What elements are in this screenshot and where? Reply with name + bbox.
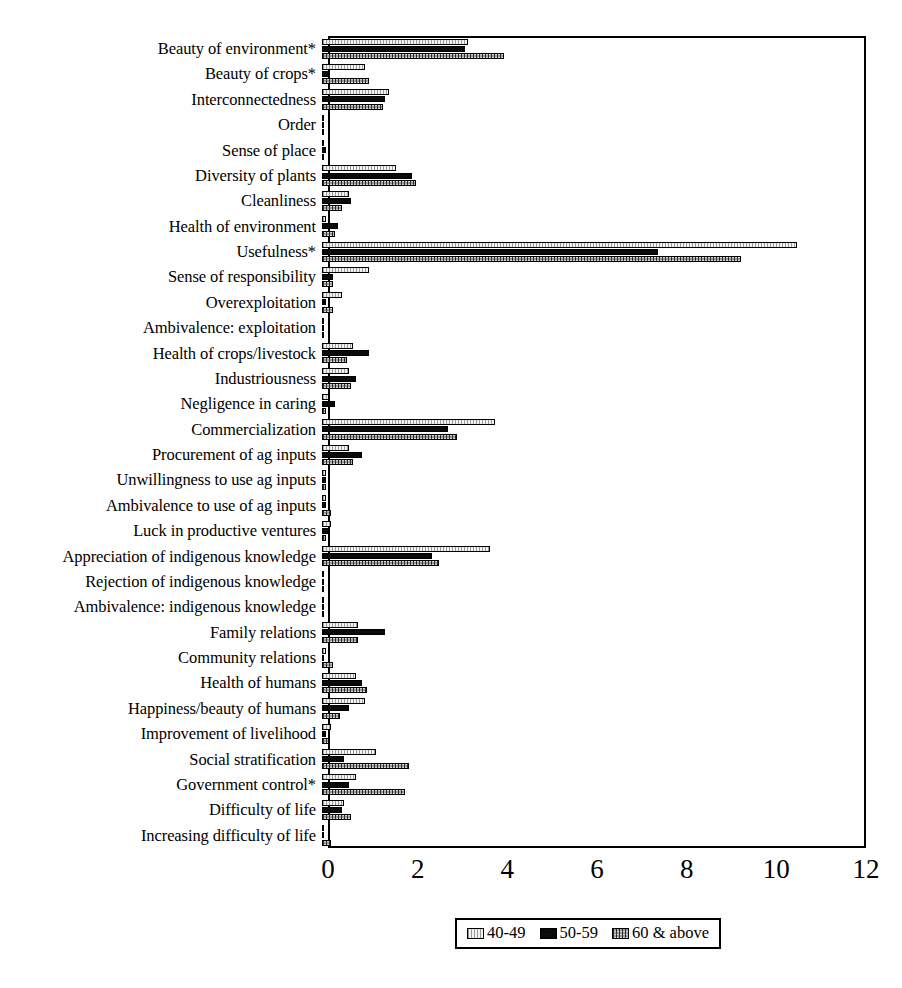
bar-50-59 [322, 731, 326, 737]
bar-50-59 [322, 832, 324, 838]
legend-item-60-above: 60 & above [612, 923, 709, 943]
bar-50-59 [322, 553, 432, 559]
bar-60-above [322, 814, 351, 820]
bar-group [322, 61, 862, 86]
bar-group [322, 518, 862, 543]
legend-swatch-icon-50-59 [540, 928, 557, 939]
legend-swatch-icon-40-49 [467, 928, 484, 939]
bar-50-59 [322, 502, 326, 508]
category-label: Luck in productive ventures [0, 522, 322, 539]
category-label: Rejection of indigenous knowledge [0, 573, 322, 590]
category-label: Community relations [0, 649, 322, 666]
bar-50-59 [322, 46, 465, 52]
bar-50-59 [322, 579, 324, 585]
bar-40-49 [322, 191, 349, 197]
bar-40-49 [322, 571, 324, 577]
bar-60-above [322, 408, 326, 414]
bar-40-49 [322, 64, 365, 70]
bar-group [322, 569, 862, 594]
category-row: Negligence in caring [0, 391, 866, 416]
category-label: Ambivalence to use of ag inputs [0, 497, 322, 514]
bar-60-above [322, 307, 333, 313]
category-row: Interconnectedness [0, 87, 866, 112]
category-row: Industriousness [0, 366, 866, 391]
bar-60-above [322, 586, 324, 592]
bar-group [322, 670, 862, 695]
bar-40-49 [322, 89, 389, 95]
bar-60-above [322, 535, 326, 541]
bar-group [322, 467, 862, 492]
bar-group [322, 264, 862, 289]
bar-50-59 [322, 401, 335, 407]
bar-50-59 [322, 807, 342, 813]
bar-40-49 [322, 419, 495, 425]
category-row: Improvement of livelihood [0, 721, 866, 746]
category-row: Difficulty of life [0, 797, 866, 822]
bar-40-49 [322, 800, 344, 806]
bar-60-above [322, 484, 326, 490]
bar-group [322, 315, 862, 340]
chart-legend: 40-49 50-59 60 & above [455, 918, 721, 949]
legend-label-50-59: 50-59 [560, 923, 599, 943]
bar-group [322, 366, 862, 391]
bar-50-59 [322, 680, 362, 686]
category-label: Beauty of environment* [0, 40, 322, 57]
bar-60-above [322, 611, 324, 617]
bar-group [322, 391, 862, 416]
bar-60-above [322, 205, 342, 211]
category-label: Unwillingness to use ag inputs [0, 471, 322, 488]
bar-40-49 [322, 546, 490, 552]
bar-40-49 [322, 445, 349, 451]
category-label: Increasing difficulty of life [0, 827, 322, 844]
category-label: Government control* [0, 776, 322, 793]
category-row: Increasing difficulty of life [0, 823, 866, 848]
bar-group [322, 214, 862, 239]
bar-40-49 [322, 368, 349, 374]
bar-60-above [322, 104, 383, 110]
category-label: Happiness/beauty of humans [0, 700, 322, 717]
bar-50-59 [322, 223, 338, 229]
bar-40-49 [322, 115, 324, 121]
category-label: Usefulness* [0, 243, 322, 260]
bar-40-49 [322, 673, 356, 679]
category-label: Ambivalence: exploitation [0, 319, 322, 336]
bar-60-above [322, 256, 741, 262]
bar-60-above [322, 713, 340, 719]
category-row: Unwillingness to use ag inputs [0, 467, 866, 492]
bar-50-59 [322, 655, 324, 661]
bar-group [322, 544, 862, 569]
legend-swatch-icon-60-above [612, 928, 629, 939]
bar-50-59 [322, 299, 326, 305]
bar-50-59 [322, 452, 362, 458]
bar-40-49 [322, 216, 326, 222]
category-label: Ambivalence: indigenous knowledge [0, 598, 322, 615]
bar-50-59 [322, 198, 351, 204]
bar-40-49 [322, 648, 326, 654]
category-row: Family relations [0, 620, 866, 645]
category-label: Sense of place [0, 142, 322, 159]
bar-40-49 [322, 165, 396, 171]
category-row: Appreciation of indigenous knowledge [0, 544, 866, 569]
bar-60-above [322, 78, 369, 84]
bar-group [322, 341, 862, 366]
category-row: Beauty of environment* [0, 36, 866, 61]
category-row: Order [0, 112, 866, 137]
bar-40-49 [322, 470, 326, 476]
bar-40-49 [322, 242, 797, 248]
category-label: Difficulty of life [0, 801, 322, 818]
category-row: Overexploitation [0, 290, 866, 315]
bar-60-above [322, 129, 324, 135]
category-label: Overexploitation [0, 294, 322, 311]
category-label: Sense of responsibility [0, 268, 322, 285]
bar-50-59 [322, 173, 412, 179]
category-row: Procurement of ag inputs [0, 442, 866, 467]
bar-50-59 [322, 426, 448, 432]
category-label: Diversity of plants [0, 167, 322, 184]
bar-group [322, 442, 862, 467]
bar-50-59 [322, 122, 324, 128]
category-label: Beauty of crops* [0, 65, 322, 82]
category-row: Government control* [0, 772, 866, 797]
bar-group [322, 239, 862, 264]
bar-50-59 [322, 325, 324, 331]
category-row: Usefulness* [0, 239, 866, 264]
